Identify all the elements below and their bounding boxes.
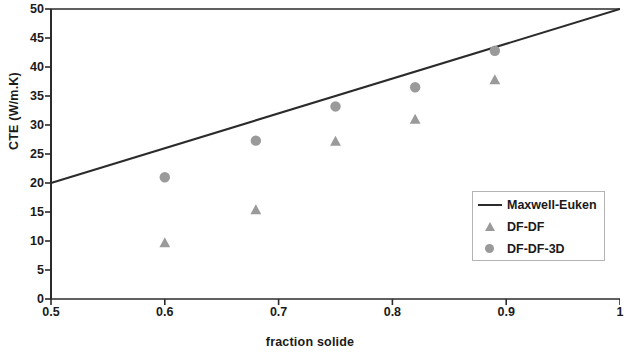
legend-item-df-df: DF-DF	[473, 216, 606, 238]
x-tick-label: 0.9	[476, 305, 536, 319]
y-tick-label: 45	[4, 32, 44, 44]
y-tick-label: 5	[4, 264, 44, 276]
line-swatch-icon	[473, 194, 507, 216]
y-tick-label: 35	[4, 90, 44, 102]
legend-label-maxwell-euken: Maxwell-Euken	[507, 198, 597, 212]
x-tick-label: 1	[590, 305, 628, 319]
y-tick-label: 20	[4, 177, 44, 189]
y-tick-label: 25	[4, 148, 44, 160]
triangle-marker-icon	[473, 216, 507, 238]
df-df-markers	[159, 74, 500, 247]
x-tick-label: 0.7	[249, 305, 309, 319]
x-tick-label: 0.6	[135, 305, 195, 319]
df-df-3d-markers	[160, 46, 500, 183]
circle-marker-icon	[473, 238, 507, 260]
y-tick-label: 50	[4, 3, 44, 15]
legend-label-df-df: DF-DF	[507, 220, 545, 234]
chart-legend: Maxwell-Euken DF-DF DF-DF-3D	[472, 191, 605, 261]
y-tick-label: 0	[4, 293, 44, 305]
y-tick-label: 30	[4, 119, 44, 131]
x-axis-title: fraction solide	[0, 335, 620, 349]
y-tick-label: 10	[4, 235, 44, 247]
legend-item-df-df-3d: DF-DF-3D	[473, 238, 606, 260]
x-tick-label: 0.8	[362, 305, 422, 319]
legend-label-df-df-3d: DF-DF-3D	[507, 242, 565, 256]
y-tick-label: 40	[4, 61, 44, 73]
y-tick-label: 15	[4, 206, 44, 218]
x-tick-label: 0.5	[21, 305, 81, 319]
legend-item-maxwell-euken: Maxwell-Euken	[473, 194, 606, 216]
maxwell-euken-line	[51, 9, 620, 183]
